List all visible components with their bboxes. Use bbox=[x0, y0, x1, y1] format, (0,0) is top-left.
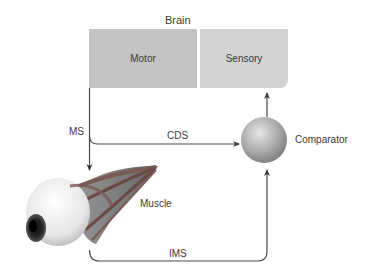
sensory-label: Sensory bbox=[226, 53, 263, 64]
brain-label: Brain bbox=[165, 14, 191, 26]
comparator-label: Comparator bbox=[295, 134, 348, 145]
cds-arrow bbox=[90, 136, 240, 144]
eye-muscle-illustration bbox=[26, 166, 158, 246]
comparator-sphere bbox=[241, 117, 287, 163]
motor-box: Motor bbox=[89, 29, 197, 88]
ims-label: IMS bbox=[169, 248, 187, 259]
motor-label: Motor bbox=[130, 53, 156, 64]
ms-label: MS bbox=[69, 126, 84, 137]
cds-label: CDS bbox=[167, 130, 188, 141]
muscle-label: Muscle bbox=[140, 198, 172, 209]
sensory-box: Sensory bbox=[200, 29, 288, 88]
